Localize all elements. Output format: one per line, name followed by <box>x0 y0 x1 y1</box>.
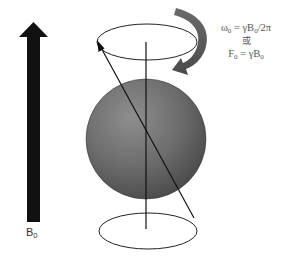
top-precession-orbit <box>97 24 197 60</box>
field-subscript: 0 <box>33 231 37 240</box>
formula-rhs: = γB <box>238 48 261 59</box>
or-text: 或 <box>242 36 251 46</box>
formula-rhs: = γB <box>231 22 254 33</box>
b-subscript: 0 <box>260 53 264 61</box>
angular-frequency-formula: ω0 = γB0/2π <box>206 22 286 34</box>
formula-suffix: /2π <box>258 22 271 33</box>
bottom-precession-orbit <box>99 213 197 249</box>
formula-or-label: 或 <box>206 35 286 47</box>
field-arrow-icon <box>19 22 48 222</box>
omega-symbol: ω <box>221 22 228 33</box>
rotation-direction-arrow-icon <box>172 8 207 75</box>
frequency-formula: F0 = γB0 <box>206 48 286 60</box>
field-label: B0 <box>26 226 38 238</box>
